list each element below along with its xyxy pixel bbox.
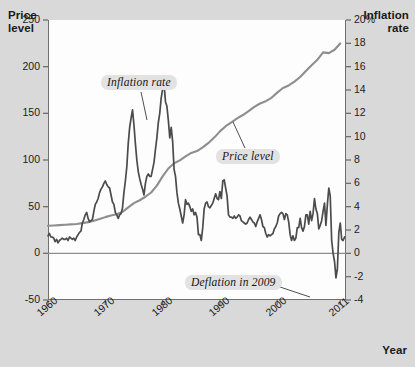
y-tick-label-right: 2 bbox=[354, 223, 360, 235]
x-axis-title: Year bbox=[382, 344, 407, 357]
y-tick-label-right: -4 bbox=[354, 293, 363, 305]
y-axis-right-title-line2: rate bbox=[388, 22, 410, 34]
y-tick-label-left: 50 bbox=[0, 200, 40, 212]
y-tick-label-right: -2 bbox=[354, 270, 363, 282]
y-tick-label-right: 4 bbox=[354, 200, 360, 212]
annotation-inflation-rate: Inflation rate bbox=[101, 75, 177, 90]
y-tick-label-right: 0 bbox=[354, 246, 360, 258]
plot-area bbox=[48, 20, 346, 300]
chart-figure: Pricelevel Inflationrate Year -500501001… bbox=[0, 0, 415, 367]
y-tick-label-left: -50 bbox=[0, 293, 40, 305]
y-tick-label-right: 12 bbox=[354, 106, 366, 118]
y-tick-label-right: 8 bbox=[354, 153, 360, 165]
y-tick-label-left: 100 bbox=[0, 153, 40, 165]
y-tick-label-left: 250 bbox=[0, 13, 40, 25]
y-tick-label-right: 16 bbox=[354, 60, 366, 72]
y-tick-label-left: 150 bbox=[0, 106, 40, 118]
y-tick-label-right: 14 bbox=[354, 83, 366, 95]
y-tick-label-right: 18 bbox=[354, 36, 366, 48]
annotation-price-level: Price level bbox=[216, 149, 280, 164]
y-tick-label-right: 10 bbox=[354, 130, 366, 142]
y-tick-label-right: 6 bbox=[354, 176, 360, 188]
y-tick-label-left: 0 bbox=[0, 246, 40, 258]
y-tick-label-right: 20% bbox=[354, 13, 375, 25]
annotation-deflation-in-2009: Deflation in 2009 bbox=[185, 275, 282, 290]
y-tick-label-left: 200 bbox=[0, 60, 40, 72]
